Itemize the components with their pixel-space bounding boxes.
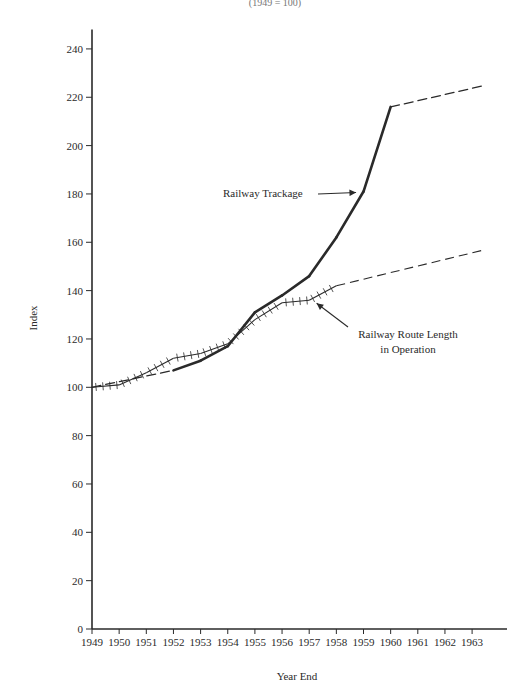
route-length-line-segment [336, 250, 485, 286]
trackage-line-segment [364, 107, 391, 192]
route-length-line-segment [309, 286, 336, 301]
y-tick-label: 0 [78, 623, 84, 635]
y-tick-label: 140 [67, 285, 84, 297]
trackage-line-segment [336, 192, 363, 238]
y-tick-label: 200 [67, 140, 84, 152]
y-tick-label: 160 [67, 236, 84, 248]
x-tick-label: 1953 [190, 636, 213, 648]
annotation-railway-trackage: Railway Trackage [223, 187, 303, 199]
x-tick-label: 1959 [353, 636, 376, 648]
annotations: Railway Trackage Railway Route Length in… [223, 187, 458, 355]
trackage-line-segment [309, 237, 336, 276]
y-tick-label: 180 [67, 188, 84, 200]
x-tick-label: 1951 [135, 636, 157, 648]
x-tick-label: 1949 [81, 636, 104, 648]
y-tick-label: 240 [67, 43, 84, 55]
arrow-trackage [318, 193, 356, 194]
x-tick-label: 1956 [271, 636, 294, 648]
x-tick-label: 1957 [298, 636, 321, 648]
trackage-line-segment [282, 276, 309, 295]
arrow-route-length [317, 303, 348, 327]
trackage-line-segment [391, 85, 486, 107]
x-tick-label: 1952 [162, 636, 184, 648]
x-tick-label: 1962 [434, 636, 456, 648]
y-tick-label: 20 [72, 575, 84, 587]
x-axis-label: Year End [277, 670, 318, 682]
x-tick-label: 1958 [325, 636, 348, 648]
x-tick-label: 1961 [407, 636, 429, 648]
line-chart: (1949 = 100) 020406080100120140160180200… [0, 0, 528, 683]
annotation-route-length-line1: Railway Route Length [358, 328, 458, 340]
y-tick-label: 40 [72, 526, 84, 538]
chart-subtitle: (1949 = 100) [249, 0, 301, 9]
x-tick-label: 1955 [244, 636, 267, 648]
trackage-line-segment [173, 361, 200, 371]
annotation-route-length-line2: in Operation [380, 343, 436, 355]
y-axis-label: Index [27, 305, 39, 331]
y-tick-label: 60 [72, 478, 84, 490]
y-tick-label: 220 [67, 91, 84, 103]
x-tick-label: 1963 [461, 636, 484, 648]
y-tick-label: 100 [67, 381, 84, 393]
x-tick-label: 1954 [217, 636, 240, 648]
y-tick-label: 80 [72, 430, 84, 442]
x-tick-label: 1960 [380, 636, 403, 648]
y-tick-label: 120 [67, 333, 84, 345]
x-tick-label: 1950 [108, 636, 131, 648]
trackage-line-segment [228, 312, 255, 346]
